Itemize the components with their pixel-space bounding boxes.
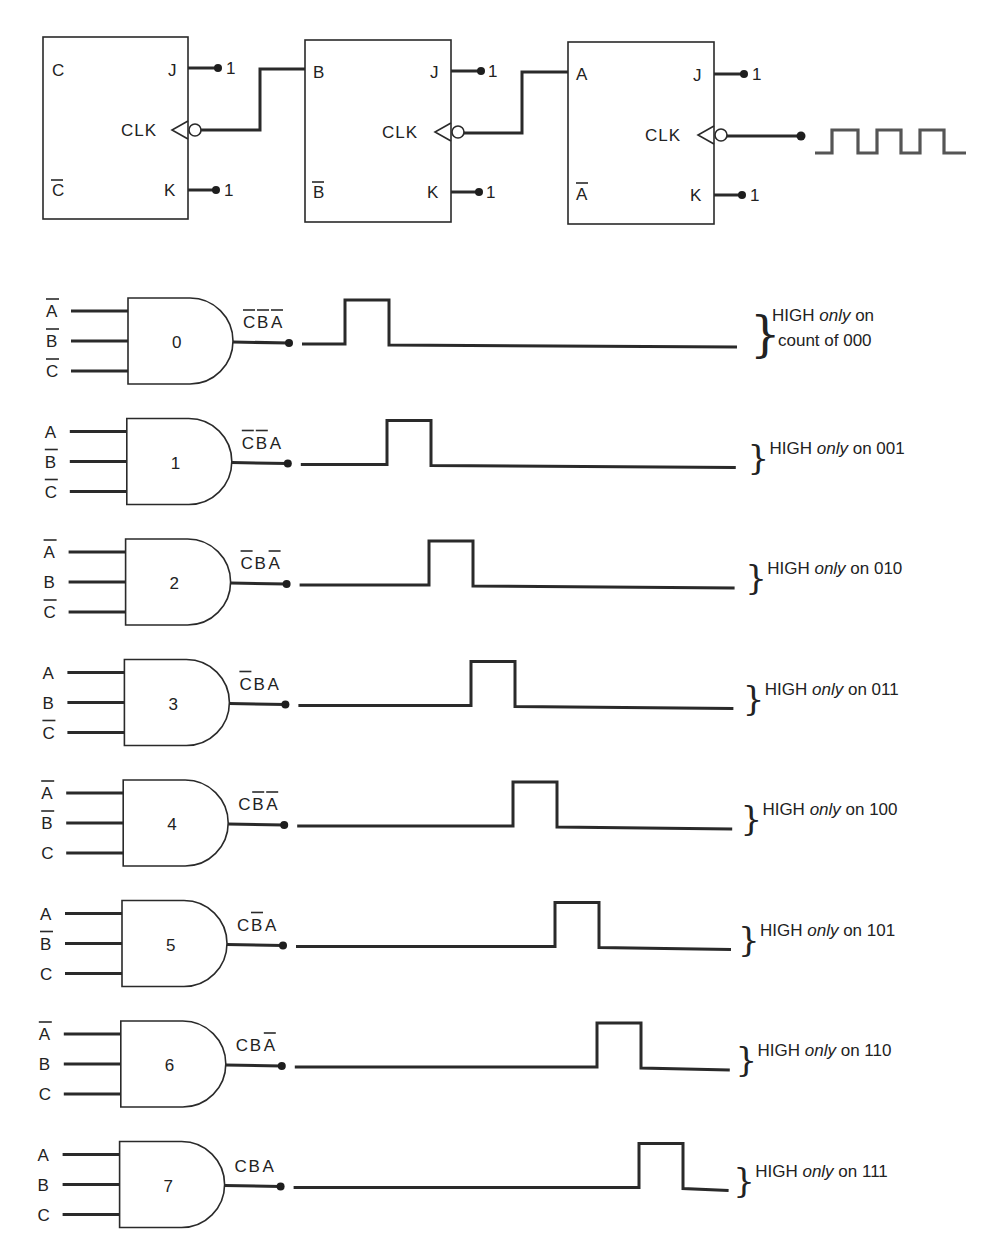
- gate-1-input-label: B: [45, 453, 56, 472]
- gate-2-input-label: C: [44, 603, 56, 622]
- flipflop-a: A A J K CLK 1 1: [568, 42, 761, 224]
- gate-4-note: HIGH only on 100: [762, 800, 897, 819]
- decoder-row-6: ABC6CBA}HIGH only on 110: [39, 1021, 892, 1107]
- gate-4-timing-waveform: [297, 782, 732, 829]
- gate-0-timing-waveform: [302, 300, 737, 347]
- gate-number: 2: [170, 574, 179, 593]
- flipflop-c-qbar-label: C: [52, 181, 64, 200]
- flipflop-b-j-tie: 1: [488, 62, 497, 81]
- gate-5-input-label: C: [40, 965, 52, 984]
- gate-6-output-term: B: [250, 1036, 261, 1055]
- inversion-bubble-icon: [452, 126, 464, 138]
- gate-0-output-term: A: [271, 313, 283, 332]
- gate-0-output-term: C: [243, 313, 255, 332]
- gate-2-output-term: B: [255, 554, 266, 573]
- gate-3-output-wire: [229, 704, 285, 705]
- gate-0-input-label: B: [46, 332, 57, 351]
- decoder-row-0: ABC0CBA}HIGH only oncount of 000: [46, 298, 874, 384]
- gate-2-note: HIGH only on 010: [767, 559, 902, 578]
- flipflop-b: B B J K CLK 1 1: [305, 40, 497, 222]
- gate-0-input-label: A: [46, 302, 58, 321]
- brace-icon: }: [733, 1160, 755, 1200]
- gate-4-input-label: A: [41, 784, 53, 803]
- output-terminal-dot: [281, 701, 289, 709]
- flipflop-c-k-label: K: [164, 181, 176, 200]
- gate-number: 7: [164, 1177, 173, 1196]
- gate-1-note: HIGH only on 001: [770, 439, 905, 458]
- brace-icon: }: [743, 678, 765, 718]
- terminal-dot: [214, 64, 222, 72]
- flipflop-a-q-label: A: [576, 65, 588, 84]
- gate-7-output-term: B: [249, 1157, 260, 1176]
- gate-6-output-wire: [226, 1065, 282, 1066]
- gate-0-output-term: B: [257, 313, 268, 332]
- flipflop-a-j-label: J: [693, 66, 702, 85]
- gate-0-input-label: C: [46, 362, 58, 381]
- gate-1-timing-waveform: [301, 421, 736, 468]
- gate-7-output-wire: [225, 1186, 281, 1187]
- output-terminal-dot: [277, 1183, 285, 1191]
- terminal-dot: [740, 70, 748, 78]
- wire-a-to-clk-b: [464, 72, 568, 133]
- gate-1-input-label: C: [45, 483, 57, 502]
- gate-6-input-label: C: [39, 1085, 51, 1104]
- gate-1-output-wire: [232, 463, 288, 464]
- brace-icon: }: [745, 557, 767, 597]
- terminal-dot: [475, 188, 483, 196]
- gate-number: 1: [171, 454, 180, 473]
- gate-6-input-label: B: [39, 1055, 50, 1074]
- gate-7-output-term: A: [263, 1157, 275, 1176]
- gate-2-output-term: C: [241, 554, 253, 573]
- gate-6-input-label: A: [39, 1025, 51, 1044]
- gate-3-input-label: A: [42, 664, 54, 683]
- gate-number: 0: [172, 333, 181, 352]
- gate-7-timing-waveform: [294, 1144, 729, 1191]
- gate-5-input-label: B: [40, 935, 51, 954]
- brace-icon: }: [736, 1039, 758, 1079]
- gate-5-output-wire: [227, 945, 283, 946]
- flipflop-a-clk-label: CLK: [645, 126, 681, 145]
- output-terminal-dot: [283, 580, 291, 588]
- clock-input-terminal-dot: [797, 132, 806, 141]
- gate-3-output-term: C: [239, 675, 251, 694]
- gate-2-input-label: B: [44, 573, 55, 592]
- gate-4-output-wire: [228, 824, 284, 825]
- gate-2-input-label: A: [44, 543, 56, 562]
- brace-icon: }: [740, 798, 762, 838]
- decoder-gates: ABC0CBA}HIGH only oncount of 000ABC1CBA}…: [38, 298, 905, 1228]
- gate-5-note: HIGH only on 101: [760, 921, 895, 940]
- gate-4-output-term: A: [266, 795, 278, 814]
- gate-number: 5: [166, 936, 175, 955]
- gate-2-output-wire: [231, 583, 287, 584]
- gate-6-output-term: A: [264, 1036, 276, 1055]
- gate-7-input-label: C: [38, 1206, 50, 1225]
- flipflop-c-k-tie: 1: [224, 181, 233, 200]
- gate-3-output-term: A: [267, 675, 279, 694]
- flipflop-b-k-label: K: [427, 183, 439, 202]
- gate-1-output-term: A: [270, 434, 282, 453]
- gate-3-input-label: B: [42, 694, 53, 713]
- flipflop-b-k-tie: 1: [486, 183, 495, 202]
- gate-number: 3: [168, 695, 177, 714]
- gate-1-output-term: B: [256, 434, 267, 453]
- flipflop-a-k-label: K: [690, 186, 702, 205]
- gate-5-output-term: B: [251, 916, 262, 935]
- gate-3-output-term: B: [253, 675, 264, 694]
- terminal-dot: [477, 67, 485, 75]
- flipflop-a-k-tie: 1: [750, 186, 759, 205]
- inversion-bubble-icon: [715, 129, 727, 141]
- clock-square-wave-icon: [815, 130, 966, 153]
- gate-0-note-line2: count of 000: [778, 331, 872, 350]
- flipflop-a-qbar-label: A: [576, 185, 588, 204]
- gate-number: 6: [165, 1056, 174, 1075]
- output-terminal-dot: [278, 1062, 286, 1070]
- flipflop-b-j-label: J: [430, 63, 439, 82]
- gate-6-note: HIGH only on 110: [758, 1041, 892, 1060]
- decoder-row-4: ABC4CBA}HIGH only on 100: [41, 780, 897, 866]
- flipflop-b-clk-label: CLK: [382, 123, 418, 142]
- gate-2-output-term: A: [269, 554, 281, 573]
- gate-2-timing-waveform: [300, 541, 735, 588]
- output-terminal-dot: [280, 821, 288, 829]
- gate-5-timing-waveform: [296, 903, 731, 950]
- gate-3-input-label: C: [42, 724, 54, 743]
